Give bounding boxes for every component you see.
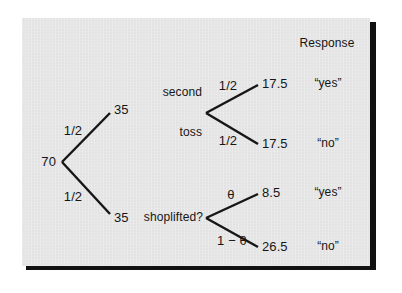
outcome-response-1: “yes” (314, 77, 341, 90)
outcome-response-3: “yes” (314, 186, 341, 199)
outcome-response-2: “no” (317, 137, 339, 150)
prob-shoplift-lower: 1 − θ (217, 234, 247, 249)
outcome-value-2: 17.5 (262, 137, 288, 152)
outcome-value-4: 26.5 (262, 240, 288, 255)
outcome-value-3: 8.5 (262, 186, 280, 201)
prob-toss-upper: 1/2 (219, 79, 237, 94)
node-root-value: 70 (41, 155, 56, 170)
node-second-toss-line2: toss (163, 126, 202, 139)
node-second-toss-line1: second (163, 86, 202, 99)
prob-root-upper: 1/2 (64, 124, 82, 139)
node-upper-value: 35 (114, 103, 129, 118)
prob-root-lower: 1/2 (64, 190, 82, 205)
prob-toss-lower: 1/2 (219, 134, 237, 149)
column-header-response: Response (300, 37, 355, 50)
node-lower-value: 35 (114, 211, 129, 226)
outcome-response-4: “no” (317, 240, 339, 253)
probability-tree-figure: Response 70 1/2 1/2 35 35 second toss sh… (0, 0, 402, 293)
prob-shoplift-upper: θ (227, 188, 234, 203)
outcome-value-1: 17.5 (262, 77, 288, 92)
node-second-toss: second toss (163, 59, 202, 167)
node-shoplifted: shoplifted? (144, 211, 203, 224)
